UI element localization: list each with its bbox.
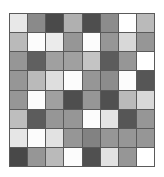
heatmap-cell [28,14,45,32]
heatmap-cell [83,148,100,166]
heatmap-cell [119,14,136,32]
heatmap-cell [119,110,136,128]
heatmap-cell [46,129,63,147]
heatmap-cell [46,71,63,89]
heatmap-cell [83,129,100,147]
heatmap-cell [64,71,81,89]
heatmap-cell [101,33,118,51]
heatmap-cell [83,52,100,70]
heatmap-cell [101,91,118,109]
heatmap-cell [83,33,100,51]
heatmap-cell [64,14,81,32]
heatmap-cell [46,33,63,51]
heatmap-cell [10,91,27,109]
heatmap-cell [101,71,118,89]
heatmap-cell [28,129,45,147]
heatmap-cell [64,52,81,70]
heatmap-cell [137,148,154,166]
heatmap-cell [119,33,136,51]
heatmap-cell [101,14,118,32]
heatmap-cell [137,71,154,89]
heatmap-cell [46,52,63,70]
heatmap-cell [83,71,100,89]
heatmap-cell [83,14,100,32]
heatmap-cell [64,110,81,128]
heatmap-cell [46,14,63,32]
heatmap-cell [10,110,27,128]
heatmap-cell [119,71,136,89]
heatmap-cell [10,14,27,32]
heatmap-cell [28,71,45,89]
heatmap-cell [10,71,27,89]
heatmap-cell [64,129,81,147]
heatmap-cell [101,110,118,128]
heatmap-cell [101,129,118,147]
heatmap-cell [28,52,45,70]
heatmap-cell [28,33,45,51]
heatmap-cell [119,91,136,109]
heatmap-cell [137,33,154,51]
heatmap-cell [46,110,63,128]
heatmap-cell [83,91,100,109]
heatmap-cell [119,129,136,147]
heatmap-cell [46,91,63,109]
heatmap-cell [101,148,118,166]
heatmap-cell [64,33,81,51]
heatmap-cell [137,110,154,128]
heatmap-cell [10,129,27,147]
heatmap-cell [137,14,154,32]
grayscale-grid-figure [0,0,164,177]
heatmap-grid [9,13,155,167]
heatmap-cell [10,52,27,70]
heatmap-cell [64,148,81,166]
heatmap-cell [83,110,100,128]
heatmap-cell [10,33,27,51]
heatmap-cell [46,148,63,166]
heatmap-cell [101,52,118,70]
heatmap-cell [28,148,45,166]
heatmap-cell [137,52,154,70]
heatmap-cell [119,52,136,70]
heatmap-cell [119,148,136,166]
heatmap-cell [10,148,27,166]
heatmap-cell [137,91,154,109]
heatmap-cell [64,91,81,109]
heatmap-cell [28,91,45,109]
heatmap-cell [28,110,45,128]
heatmap-cell [137,129,154,147]
